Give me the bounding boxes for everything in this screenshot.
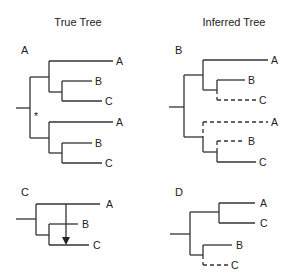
panel-c-tree: C A B C <box>16 186 113 251</box>
leaf-label: A <box>271 54 278 66</box>
panel-b-tree: B A B C A B C <box>169 44 278 168</box>
phylogenetic-tree-diagram: True Tree Inferred Tree A * A B C A B C <box>0 0 295 276</box>
panel-d-tree: D A C B C <box>170 186 268 271</box>
leaf-label: B <box>248 74 255 86</box>
leaf-label: B <box>82 218 89 230</box>
arrowhead-icon <box>62 237 70 245</box>
leaf-label: B <box>95 137 102 149</box>
panel-b-label: B <box>175 44 182 56</box>
panel-a-tree: A * A B C A B C <box>16 44 123 169</box>
inferred-tree-title: Inferred Tree <box>203 16 266 28</box>
leaf-label: C <box>259 156 267 168</box>
panel-d-label: D <box>175 186 183 198</box>
leaf-label: B <box>236 239 243 251</box>
leaf-label: C <box>231 259 239 271</box>
leaf-label: C <box>260 217 268 229</box>
leaf-label: C <box>105 157 113 169</box>
leaf-label: A <box>116 55 123 67</box>
asterisk-marker: * <box>34 110 38 122</box>
leaf-label: A <box>260 197 267 209</box>
leaf-label: A <box>271 116 278 128</box>
true-tree-title: True Tree <box>54 16 101 28</box>
leaf-label: A <box>106 198 113 210</box>
leaf-label: C <box>259 94 267 106</box>
leaf-label: B <box>248 135 255 147</box>
leaf-label: C <box>105 95 113 107</box>
panel-a-label: A <box>21 44 29 56</box>
leaf-label: C <box>93 239 101 251</box>
leaf-label: B <box>95 75 102 87</box>
panel-c-label: C <box>21 186 29 198</box>
leaf-label: A <box>116 116 123 128</box>
